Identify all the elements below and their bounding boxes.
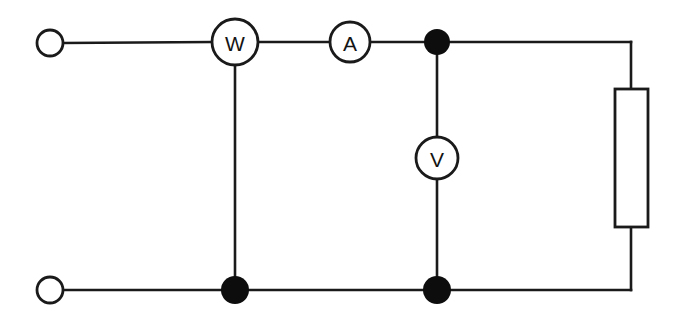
ammeter-label: A: [343, 32, 357, 55]
voltmeter[interactable]: V: [416, 137, 458, 179]
ammeter[interactable]: A: [330, 22, 370, 62]
junction-bottom-right: [423, 276, 451, 304]
junction-top-right: [424, 29, 450, 55]
wattmeter[interactable]: W: [212, 19, 258, 65]
wire-group: [63, 42, 631, 290]
junction-bottom-left: [221, 276, 249, 304]
circuit-schematic: W A V: [0, 0, 676, 321]
resistor-load: [615, 89, 648, 227]
voltmeter-label: V: [430, 148, 444, 171]
wattmeter-label: W: [225, 32, 245, 55]
supply-terminal-top[interactable]: [37, 30, 63, 56]
supply-terminal-bottom[interactable]: [37, 277, 63, 303]
wire-top-rail-left: [63, 42, 212, 43]
circuit-diagram-canvas: W A V: [0, 0, 676, 321]
